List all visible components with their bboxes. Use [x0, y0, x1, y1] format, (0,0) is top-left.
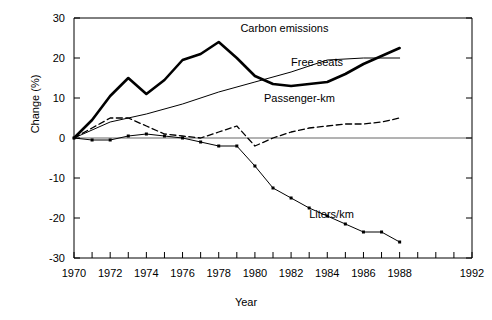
- x-tick-label: 1988: [387, 267, 411, 279]
- series-marker: [181, 137, 184, 140]
- series-marker: [163, 135, 166, 138]
- y-tick-label: 20: [53, 52, 65, 64]
- series-marker: [109, 139, 112, 142]
- axes-group: -30-20-100102030197019721974197619781980…: [49, 12, 484, 279]
- y-tick-label: -10: [49, 172, 65, 184]
- series-marker: [344, 223, 347, 226]
- series-annotation: Liters/km: [309, 208, 354, 220]
- line-chart-plot: -30-20-100102030197019721974197619781980…: [0, 0, 492, 320]
- x-tick-label: 1970: [62, 267, 86, 279]
- series-marker: [290, 197, 293, 200]
- series-marker: [73, 137, 76, 140]
- y-tick-label: -20: [49, 212, 65, 224]
- series-marker: [217, 145, 220, 148]
- y-tick-label: 0: [59, 132, 65, 144]
- y-axis-label-wrapper: Change (%): [25, 44, 43, 164]
- y-tick-label: -30: [49, 252, 65, 264]
- x-tick-label: 1984: [315, 267, 339, 279]
- x-tick-label: 1992: [460, 267, 484, 279]
- x-tick-label: 1978: [206, 267, 230, 279]
- series-annotation: Free seats: [291, 56, 343, 68]
- series-marker: [199, 141, 202, 144]
- series-marker: [362, 231, 365, 234]
- x-tick-label: 1980: [243, 267, 267, 279]
- series-line: [74, 134, 400, 242]
- y-tick-label: 30: [53, 12, 65, 24]
- series-annotation: Passenger-km: [264, 92, 335, 104]
- chart-figure: -30-20-100102030197019721974197619781980…: [0, 0, 492, 320]
- y-tick-label: 10: [53, 92, 65, 104]
- x-tick-label: 1982: [279, 267, 303, 279]
- x-tick-label: 1976: [170, 267, 194, 279]
- series-marker: [91, 139, 94, 142]
- series-marker: [398, 241, 401, 244]
- series-marker: [272, 187, 275, 190]
- y-axis-label: Change (%): [29, 75, 41, 134]
- series-marker: [127, 135, 130, 138]
- series-group: Carbon emissionsFree seatsPassenger-kmLi…: [73, 22, 402, 244]
- series-line: [74, 118, 400, 146]
- x-axis-label-text: Year: [235, 296, 257, 308]
- series-marker: [235, 145, 238, 148]
- x-tick-label: 1972: [98, 267, 122, 279]
- x-tick-label: 1974: [134, 267, 158, 279]
- x-axis-label: Year: [0, 296, 492, 308]
- series-marker: [145, 133, 148, 136]
- series-annotation: Carbon emissions: [240, 22, 329, 34]
- series-marker: [253, 165, 256, 168]
- x-tick-label: 1986: [351, 267, 375, 279]
- series-marker: [380, 231, 383, 234]
